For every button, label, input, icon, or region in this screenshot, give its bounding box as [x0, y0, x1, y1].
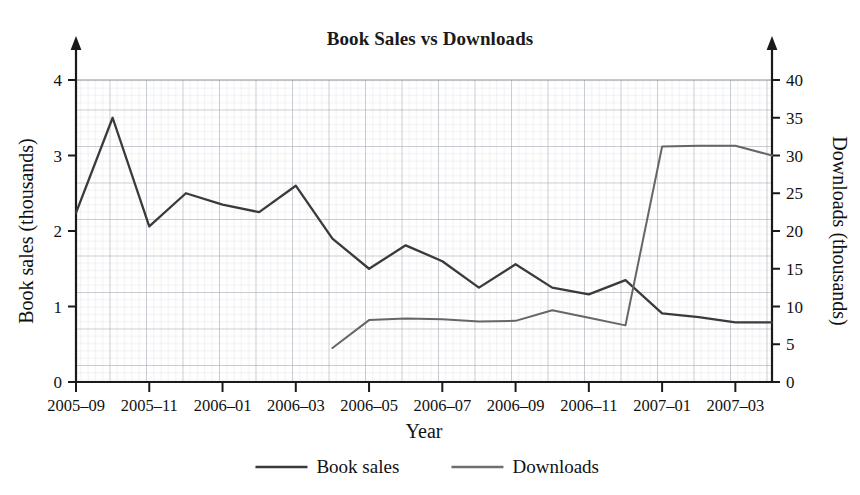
- y2-tick-label: 5: [786, 335, 795, 354]
- y-tick-label: 4: [54, 71, 63, 90]
- x-tick-label: 2007–01: [633, 396, 691, 415]
- y-tick-label: 2: [54, 222, 63, 241]
- y2-tick-label: 40: [786, 71, 803, 90]
- legend-label-downloads: Downloads: [512, 456, 599, 477]
- y2-tick-label: 0: [786, 373, 795, 392]
- y2-axis-label: Downloads (thousands): [828, 136, 851, 325]
- line-chart-canvas: 01234 0510152025303540 2005–092005–11200…: [0, 0, 860, 495]
- x-tick-label: 2006–03: [267, 396, 325, 415]
- x-tick-label: 2005–09: [47, 396, 105, 415]
- legend-label-book-sales: Book sales: [316, 456, 399, 477]
- x-tick-label: 2006–11: [560, 396, 617, 415]
- y2-tick-label: 15: [786, 260, 803, 279]
- right-axis: 0510152025303540: [767, 36, 803, 392]
- x-tick-label: 2005–11: [121, 396, 178, 415]
- y-tick-label: 1: [54, 298, 63, 317]
- x-axis: 2005–092005–112006–012006–032006–052006–…: [47, 382, 778, 415]
- y2-tick-label: 35: [786, 109, 803, 128]
- x-tick-label: 2006–05: [340, 396, 398, 415]
- x-axis-label: Year: [406, 420, 443, 442]
- y-tick-label: 3: [54, 147, 63, 166]
- chart-legend: Book salesDownloads: [255, 456, 599, 477]
- x-tick-label: 2007–03: [706, 396, 764, 415]
- y2-tick-label: 10: [786, 298, 803, 317]
- x-tick-label: 2006–01: [194, 396, 252, 415]
- y2-tick-label: 25: [786, 184, 803, 203]
- y-tick-label: 0: [54, 373, 63, 392]
- x-tick-label: 2006–07: [413, 396, 471, 415]
- x-tick-label: 2006–09: [487, 396, 545, 415]
- y-axis-label: Book sales (thousands): [15, 138, 38, 324]
- chart-figure: Book Sales vs Downloads 01234 0510152025…: [0, 0, 860, 495]
- y2-tick-label: 30: [786, 147, 803, 166]
- plot-grid: [76, 80, 772, 382]
- y2-tick-label: 20: [786, 222, 803, 241]
